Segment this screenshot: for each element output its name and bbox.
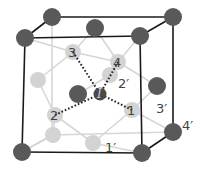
label-site-2: 2: [50, 108, 58, 123]
atom-dark-front-top-left: [16, 29, 34, 47]
label-site-1: 1: [127, 103, 135, 118]
atom-dark-top-face-center: [86, 19, 104, 37]
label-site-3p: 3′: [156, 101, 167, 116]
label-site-2p: 2′: [118, 76, 129, 91]
atom-light-lower-left: [45, 127, 61, 143]
label-site-3: 3: [68, 45, 76, 60]
atom-site-3p: [148, 77, 166, 95]
atom-dark-front-top-right: [131, 27, 149, 45]
unit-cell-figure: 3 4 2′ 2 1 3′ 4′ 1′ I: [0, 0, 204, 170]
label-site-4: 4: [113, 55, 121, 70]
atom-dark-center: [69, 85, 87, 103]
crystal-diagram: 3 4 2′ 2 1 3′ 4′ 1′ I: [0, 0, 204, 170]
label-site-1p: 1′: [105, 140, 116, 155]
label-site-4p: 4′: [182, 118, 193, 133]
atom-site-4p: [164, 123, 182, 141]
atom-light-left: [30, 72, 46, 88]
atom-dark-front-bottom-right: [133, 144, 151, 162]
label-interstitial: I: [96, 87, 102, 101]
atom-dark-front-bottom-left: [13, 143, 31, 161]
atom-site-1p: [85, 135, 101, 151]
atom-dark-back-top-right: [164, 8, 182, 26]
atom-dark-back-top-left: [43, 8, 61, 26]
